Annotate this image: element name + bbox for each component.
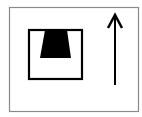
diagram-canvas: [0, 0, 142, 117]
diagram-svg: [0, 0, 142, 117]
up-arrow-icon: [108, 15, 122, 85]
trapezoid-shape: [40, 30, 71, 58]
